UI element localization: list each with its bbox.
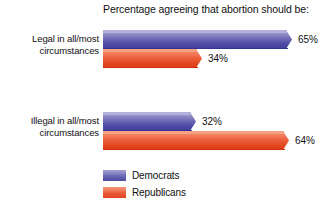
category-label-line: Illegal in all/most bbox=[4, 115, 99, 127]
bar-shape bbox=[103, 49, 202, 68]
legend-label: Republicans bbox=[132, 185, 186, 200]
bar-shape bbox=[103, 131, 289, 150]
bar-bottom-shadow bbox=[103, 149, 285, 151]
bar-chart: Percentage agreeing that abortion should… bbox=[0, 0, 333, 216]
bar-shape bbox=[103, 112, 196, 131]
bar-bottom-shadow bbox=[103, 67, 198, 69]
bar-republicans-illegal bbox=[103, 131, 289, 150]
value-label-democrats-legal: 65% bbox=[298, 30, 318, 49]
republicans-swatch-icon bbox=[103, 187, 126, 198]
bar-democrats-illegal bbox=[103, 112, 196, 131]
value-label-republicans-legal: 34% bbox=[208, 49, 228, 68]
category-label-legal: Legal in all/most circumstances bbox=[4, 33, 99, 56]
category-label-illegal: Illegal in all/most circumstances bbox=[4, 115, 99, 138]
category-label-line: Legal in all/most bbox=[4, 33, 99, 45]
value-label-republicans-illegal: 64% bbox=[295, 131, 315, 150]
bar-top-highlight bbox=[103, 30, 287, 33]
category-label-line: circumstances bbox=[4, 127, 99, 139]
bar-top-highlight bbox=[103, 131, 284, 134]
bar-democrats-legal bbox=[103, 30, 292, 49]
bar-republicans-legal bbox=[103, 49, 202, 68]
bar-shape bbox=[103, 30, 292, 49]
bar-top-highlight bbox=[103, 112, 191, 115]
value-label-democrats-illegal: 32% bbox=[202, 112, 222, 131]
democrats-swatch-icon bbox=[103, 170, 126, 181]
chart-title: Percentage agreeing that abortion should… bbox=[103, 3, 309, 16]
category-label-line: circumstances bbox=[4, 45, 99, 57]
legend-label: Democrats bbox=[132, 168, 179, 183]
bar-top-highlight bbox=[103, 49, 197, 52]
